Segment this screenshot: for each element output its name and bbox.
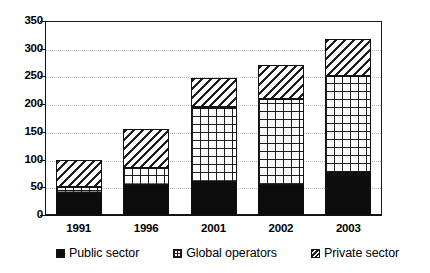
y-axis-tick-label: 250	[9, 71, 43, 83]
solid-black-swatch-icon	[56, 249, 65, 258]
bar-1991[interactable]	[56, 160, 102, 215]
bar-2001[interactable]	[191, 78, 237, 215]
stacked-bar-chart: 050100150200250300350 199119962001200220…	[0, 0, 430, 273]
bar-segment-private-sector	[325, 39, 371, 77]
legend-item-public-sector[interactable]: Public sector	[56, 246, 139, 260]
legend-label: Global operators	[186, 246, 277, 260]
diagonal-hatch-swatch-icon	[311, 249, 320, 258]
bar-segment-private-sector	[123, 129, 169, 168]
bar-2003[interactable]	[325, 39, 371, 215]
y-axis-tick	[40, 215, 45, 216]
bar-segment-public-sector	[123, 185, 169, 215]
y-axis-tick-label: 200	[9, 98, 43, 110]
y-axis-tick-label: 0	[9, 209, 43, 221]
y-axis-tick-label: 100	[9, 154, 43, 166]
bar-segment-private-sector	[56, 160, 102, 188]
chart-legend: Public sectorGlobal operatorsPrivate sec…	[45, 242, 410, 264]
y-axis-tick-label: 50	[9, 182, 43, 194]
grid-hatch-swatch-icon	[173, 249, 182, 258]
y-axis-tick-label: 300	[9, 43, 43, 55]
bar-segment-global-operators	[56, 187, 102, 193]
legend-item-private-sector[interactable]: Private sector	[311, 246, 399, 260]
legend-label: Public sector	[69, 246, 139, 260]
legend-label: Private sector	[324, 246, 399, 260]
bar-segment-private-sector	[191, 78, 237, 107]
x-axis-line	[45, 215, 382, 216]
bar-1996[interactable]	[123, 129, 169, 215]
bar-segment-public-sector	[56, 193, 102, 215]
bar-segment-global-operators	[191, 107, 237, 182]
y-axis-tick-label: 150	[9, 126, 43, 138]
x-axis-tick-label: 2003	[308, 222, 388, 234]
bar-segment-public-sector	[191, 182, 237, 215]
y-axis-tick-label: 350	[9, 15, 43, 27]
bar-segment-public-sector	[258, 185, 304, 215]
bar-segment-global-operators	[325, 76, 371, 173]
bar-segment-global-operators	[123, 168, 169, 185]
bar-segment-public-sector	[325, 173, 371, 215]
bar-segment-private-sector	[258, 65, 304, 98]
bar-segment-global-operators	[258, 99, 304, 185]
bars-layer	[45, 21, 382, 215]
legend-item-global-operators[interactable]: Global operators	[173, 246, 277, 260]
bar-2002[interactable]	[258, 65, 304, 215]
